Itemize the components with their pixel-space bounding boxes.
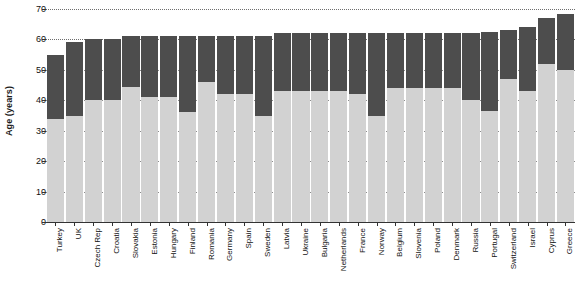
x-tick-mark	[528, 223, 529, 226]
x-tick-label: Portugal	[490, 228, 499, 258]
x-tick-label: UK	[74, 228, 83, 239]
bar-segment-upper	[160, 36, 177, 97]
x-tick-label: Denmark	[452, 228, 461, 260]
x-tick-mark	[150, 223, 151, 226]
bar-segment-lower	[255, 116, 272, 223]
x-tick-mark	[565, 223, 566, 226]
bar-segment-upper	[349, 33, 366, 94]
age-by-country-stacked-bar-chart: Age (years) 010203040506070 TurkeyUKCzec…	[0, 0, 579, 308]
bar-segment-upper	[444, 33, 461, 88]
x-tick-label: Russia	[471, 228, 480, 252]
bar-column	[179, 9, 196, 222]
bar-column	[104, 9, 121, 222]
x-tick-cell: Slovenia	[405, 223, 424, 307]
x-tick-mark	[490, 223, 491, 226]
x-tick-label: Hungary	[169, 228, 178, 258]
x-tick-label: Germany	[225, 228, 234, 261]
bar-column	[236, 9, 253, 222]
x-tick-mark	[433, 223, 434, 226]
bar-segment-lower	[236, 94, 253, 222]
x-tick-mark	[509, 223, 510, 226]
x-tick-cell: Slovakia	[122, 223, 141, 307]
bar-segment-upper	[462, 33, 479, 100]
bar-segment-upper	[198, 36, 215, 82]
bar-column	[274, 9, 291, 222]
bar-column	[387, 9, 404, 222]
x-tick-mark	[169, 223, 170, 226]
bar-column	[311, 9, 328, 222]
bar-column	[160, 9, 177, 222]
x-tick-mark	[93, 223, 94, 226]
bar-column	[538, 9, 555, 222]
bar-segment-lower	[66, 116, 83, 223]
bar-segment-upper	[425, 33, 442, 88]
x-tick-cell: Switzerland	[499, 223, 518, 307]
x-axis-tick-labels: TurkeyUKCzech RepCroatiaSlovakiaEstoniaH…	[46, 223, 575, 307]
bar-segment-upper	[47, 55, 64, 119]
x-tick-cell: Hungary	[159, 223, 178, 307]
x-tick-label: Romania	[207, 228, 216, 260]
bar-segment-upper	[500, 30, 517, 79]
bar-segment-lower	[85, 100, 102, 222]
x-tick-cell: Spain	[235, 223, 254, 307]
bar-segment-lower	[557, 70, 574, 222]
bar-segment-lower	[462, 100, 479, 222]
bar-segment-upper	[179, 36, 196, 112]
bar-series-container	[46, 9, 575, 222]
x-tick-label: Switzerland	[509, 228, 518, 269]
x-tick-cell: France	[348, 223, 367, 307]
bar-segment-upper	[236, 36, 253, 94]
bar-segment-lower	[368, 116, 385, 223]
bar-segment-upper	[311, 33, 328, 91]
x-tick-cell: Norway	[367, 223, 386, 307]
bar-segment-lower	[141, 97, 158, 222]
x-tick-mark	[74, 223, 75, 226]
bar-column	[198, 9, 215, 222]
x-tick-label: Czech Rep	[93, 228, 102, 268]
x-tick-cell: Denmark	[443, 223, 462, 307]
x-tick-label: Cyprus	[547, 228, 556, 253]
bar-column	[330, 9, 347, 222]
x-tick-cell: Cyprus	[537, 223, 556, 307]
bar-column	[141, 9, 158, 222]
bar-segment-lower	[160, 97, 177, 222]
x-tick-cell: Croatia	[103, 223, 122, 307]
x-tick-label: Turkey	[55, 228, 64, 252]
bar-column	[122, 9, 139, 222]
bar-column	[425, 9, 442, 222]
bar-segment-upper	[557, 14, 574, 70]
x-tick-mark	[339, 223, 340, 226]
x-tick-mark	[452, 223, 453, 226]
bar-segment-lower	[481, 111, 498, 222]
bar-segment-lower	[311, 91, 328, 222]
bar-segment-lower	[519, 91, 536, 222]
bar-column	[462, 9, 479, 222]
bar-segment-upper	[255, 36, 272, 115]
x-tick-label: Spain	[244, 228, 253, 248]
bar-column	[519, 9, 536, 222]
x-tick-mark	[207, 223, 208, 226]
bar-segment-upper	[292, 33, 309, 91]
x-tick-label: Greece	[565, 228, 574, 254]
bar-column	[481, 9, 498, 222]
x-tick-label: Slovakia	[131, 228, 140, 258]
x-tick-cell: Portugal	[480, 223, 499, 307]
bar-column	[255, 9, 272, 222]
x-tick-mark	[301, 223, 302, 226]
plot-area	[46, 9, 575, 222]
bar-segment-lower	[425, 88, 442, 222]
bar-segment-lower	[217, 94, 234, 222]
x-tick-mark	[377, 223, 378, 226]
x-tick-label: Belgium	[395, 228, 404, 257]
bar-column	[85, 9, 102, 222]
x-tick-cell: Poland	[424, 223, 443, 307]
x-tick-cell: UK	[65, 223, 84, 307]
x-tick-label: Croatia	[112, 228, 121, 254]
bar-column	[368, 9, 385, 222]
x-tick-cell: Bulgaria	[310, 223, 329, 307]
bar-segment-lower	[274, 91, 291, 222]
bar-segment-upper	[66, 42, 83, 115]
x-tick-cell: Sweden	[254, 223, 273, 307]
x-tick-label: Israel	[528, 228, 537, 248]
x-tick-label: Bulgaria	[320, 228, 329, 257]
